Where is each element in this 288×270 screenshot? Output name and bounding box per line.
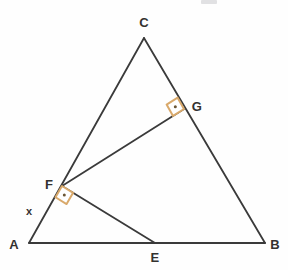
cropped-text-artifact: [201, 0, 217, 4]
segments-layer: [29, 38, 265, 243]
geometry-canvas: [0, 0, 288, 270]
vertex-label-C: C: [139, 16, 149, 29]
vertex-label-B: B: [270, 238, 280, 251]
angle-variable-label-x: x: [26, 206, 32, 217]
right-angle-at-F-dot: [63, 194, 66, 197]
geometry-diagram: C G F A B E x: [0, 0, 288, 270]
right-angle-at-F: [55, 186, 73, 204]
right-angle-marks-layer: [55, 98, 184, 204]
cevian-FE: [62, 186, 155, 243]
vertex-label-A: A: [9, 238, 19, 251]
vertex-label-E: E: [151, 251, 160, 264]
vertex-label-F: F: [45, 178, 53, 191]
side-AC: [29, 38, 144, 243]
cevian-FG: [62, 109, 184, 186]
right-angle-at-G-dot: [174, 105, 177, 108]
vertex-label-G: G: [192, 100, 202, 113]
side-CB: [144, 38, 265, 243]
